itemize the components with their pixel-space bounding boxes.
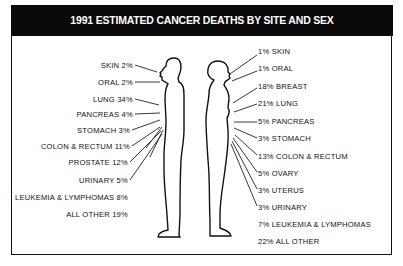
female-silhouette-icon (206, 61, 231, 236)
male-label-skin: SKIN 2% (101, 61, 133, 70)
male-label-urinary: URINARY 5% (79, 176, 128, 185)
female-label-urinary: 3% URINARY (258, 203, 307, 212)
male-label-stomach: STOMACH 3% (77, 126, 130, 135)
male-label-leukemia-lymphomas: LEUKEMIA & LYMPHOMAS 8% (15, 193, 128, 202)
male-label-colon-rectum: COLON & RECTUM 11% (41, 142, 130, 151)
female-label-pancreas: 5% PANCREAS (258, 117, 315, 126)
female-label-oral: 1% ORAL (258, 64, 293, 73)
male-label-lung: LUNG 34% (93, 95, 133, 104)
male-label-oral: ORAL 2% (98, 78, 133, 87)
female-label-all-other: 22% ALL OTHER (258, 237, 319, 246)
male-silhouette-icon (158, 58, 184, 237)
male-label-pancreas: PANCREAS 4% (77, 110, 134, 119)
female-label-uterus: 3% UTERUS (258, 186, 304, 195)
female-label-ovary: 5% OVARY (258, 169, 299, 178)
male-label-all-other: ALL OTHER 19% (66, 210, 128, 219)
female-label-stomach: 3% STOMACH (258, 134, 311, 143)
female-label-skin: 1% SKIN (258, 47, 290, 56)
female-label-breast: 18% BREAST (258, 82, 308, 91)
female-label-lung: 21% LUNG (258, 99, 298, 108)
male-label-prostate: PROSTATE 12% (68, 158, 128, 167)
female-label-leukemia-lymphomas: 7% LEUKEMIA & LYMPHOMAS (258, 220, 371, 229)
female-label-colon-rectum: 13% COLON & RECTUM (258, 152, 348, 161)
